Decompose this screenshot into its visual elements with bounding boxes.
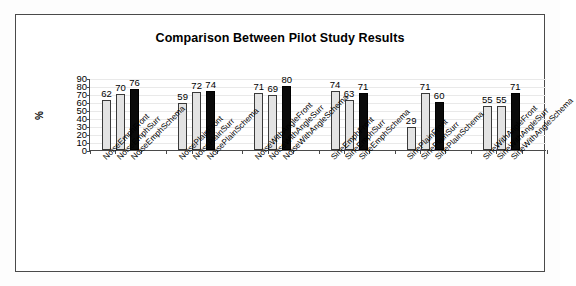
bar-value-label: 74 bbox=[330, 80, 341, 90]
bar-value-label: 72 bbox=[191, 81, 202, 91]
bar bbox=[483, 106, 492, 150]
bar-value-label: 62 bbox=[101, 89, 112, 99]
bar-value-label: 59 bbox=[177, 92, 188, 102]
bar-value-label: 76 bbox=[129, 78, 140, 88]
bar-value-label: 55 bbox=[496, 95, 507, 105]
y-axis-label: % bbox=[34, 101, 45, 131]
bar-value-label: 69 bbox=[268, 84, 279, 94]
bar bbox=[102, 100, 111, 150]
bar-value-label: 71 bbox=[358, 82, 369, 92]
bar-value-label: 74 bbox=[205, 80, 216, 90]
chart-frame: Comparison Between Pilot Study Results %… bbox=[15, 14, 545, 272]
bar-value-label: 70 bbox=[115, 83, 126, 93]
bar-value-label: 71 bbox=[510, 82, 521, 92]
bar-value-label: 60 bbox=[434, 91, 445, 101]
bar-value-label: 80 bbox=[282, 75, 293, 85]
bar bbox=[254, 93, 263, 150]
y-tick-label: 90 bbox=[76, 74, 87, 84]
bar-value-label: 55 bbox=[482, 95, 493, 105]
chart-title: Comparison Between Pilot Study Results bbox=[16, 31, 544, 45]
x-axis-labels: NoiseEmphFrontNoiseEmphSurrNoiseEmphSche… bbox=[89, 154, 559, 274]
bar-value-label: 71 bbox=[254, 82, 265, 92]
bar-value-label: 71 bbox=[420, 82, 431, 92]
